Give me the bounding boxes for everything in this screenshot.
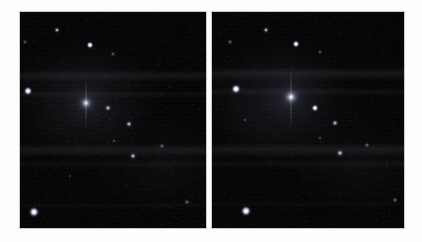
star-star-se-1 <box>331 119 339 127</box>
star-star-ul-faint <box>22 40 27 45</box>
star-star-se-3 <box>129 152 137 160</box>
figure-root: Left frame Right frame <box>0 0 422 242</box>
sky-field-left <box>20 12 206 228</box>
star-star-se-1 <box>125 120 133 128</box>
star-star-se-2 <box>159 143 165 149</box>
star-star-top-mid <box>262 27 269 34</box>
central-diffuse-galaxy <box>278 85 303 110</box>
star-star-lower-faint <box>69 175 72 178</box>
star-star-mid-faint <box>112 139 116 143</box>
star-star-west-bright <box>230 83 242 95</box>
star-star-upper-center <box>85 41 94 50</box>
sky-field-right <box>212 12 404 228</box>
star-star-left-faint <box>243 118 247 122</box>
star-star-top-mid <box>54 27 61 34</box>
star-star-bottom-left <box>27 205 40 218</box>
star-star-se-2 <box>364 142 370 148</box>
star-star-east-of-core <box>310 104 319 113</box>
detector-noise <box>20 12 206 228</box>
image-panel-right[interactable]: Right frame <box>211 11 405 229</box>
star-star-right-edge <box>184 199 190 205</box>
central-diffuse-galaxy <box>75 92 97 114</box>
star-star-se-3 <box>335 149 344 158</box>
star-star-right-edge <box>392 197 398 203</box>
star-star-west-bright <box>23 85 34 96</box>
star-star-mid-faint <box>318 136 322 140</box>
star-star-ul-faint <box>227 39 233 45</box>
star-star-upper-center <box>292 40 301 49</box>
star-star-bottom-left <box>239 204 252 217</box>
star-star-upper-right <box>317 49 322 54</box>
image-panel-left[interactable]: Left frame <box>19 11 207 229</box>
star-star-east-of-core <box>104 104 112 112</box>
star-star-upper-right <box>111 52 116 57</box>
